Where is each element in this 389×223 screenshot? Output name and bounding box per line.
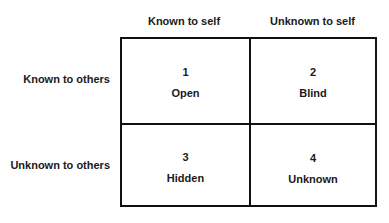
quadrant-number: 3 [122,151,249,163]
quadrant-blind: 2 Blind [251,66,375,99]
quadrant-number: 4 [251,152,375,164]
column-header-known-to-self: Known to self [120,15,248,27]
quadrant-label: Blind [299,87,327,99]
column-header-unknown-to-self: Unknown to self [248,15,377,27]
horizontal-divider [122,123,375,125]
quadrant-label: Hidden [167,172,204,184]
quadrant-open: 1 Open [122,66,249,99]
johari-window-grid: 1 Open 2 Blind 3 Hidden 4 Unknown [120,37,377,207]
quadrant-label: Unknown [288,173,338,185]
row-header-unknown-to-others: Unknown to others [10,159,110,171]
quadrant-unknown: 4 Unknown [251,152,375,185]
row-header-known-to-others: Known to others [23,73,110,85]
quadrant-number: 1 [122,66,249,78]
quadrant-label: Open [171,87,199,99]
quadrant-hidden: 3 Hidden [122,151,249,184]
quadrant-number: 2 [251,66,375,78]
